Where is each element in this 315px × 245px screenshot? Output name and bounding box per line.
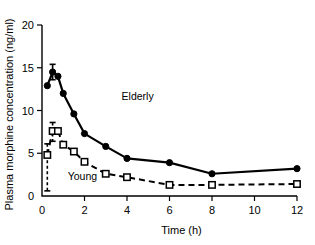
chart-figure: 05101520024681012 Time (h)Plasma morphin… (0, 0, 315, 245)
y-tick-label: 5 (28, 147, 34, 159)
data-point-elderly (103, 143, 109, 149)
plot-canvas: 05101520024681012 Time (h)Plasma morphin… (0, 0, 315, 245)
y-axis-title: Plasma morphine concentration (ng/ml) (3, 19, 15, 211)
y-tick-label: 0 (28, 190, 34, 202)
x-tick-label: 12 (291, 204, 303, 216)
x-tick-label: 4 (124, 204, 130, 216)
series-annotation-elderly: Elderly (122, 90, 155, 102)
data-point-elderly (71, 111, 77, 117)
y-tick-label: 15 (22, 62, 34, 74)
data-point-young (81, 159, 87, 165)
data-point-elderly (294, 166, 300, 172)
data-point-elderly (81, 130, 87, 136)
data-point-elderly (166, 160, 172, 166)
data-point-young (44, 152, 50, 158)
data-point-young (124, 174, 130, 180)
axes: 05101520024681012 (22, 19, 303, 216)
x-tick-label: 0 (39, 204, 45, 216)
data-point-young (166, 182, 172, 188)
x-tick-label: 10 (248, 204, 260, 216)
series-annotations: ElderlyYoung (68, 90, 155, 182)
data-point-young (103, 171, 109, 177)
data-point-elderly (44, 83, 50, 89)
data-point-young (294, 181, 300, 187)
series-annotation-young: Young (68, 170, 98, 182)
data-point-elderly (50, 69, 56, 75)
y-tick-label: 20 (22, 19, 34, 31)
x-tick-label: 2 (81, 204, 87, 216)
data-point-young (71, 148, 77, 154)
data-point-elderly (60, 90, 66, 96)
data-point-elderly (209, 171, 215, 177)
data-point-young (209, 182, 215, 188)
x-tick-label: 8 (209, 204, 215, 216)
x-axis-title: Time (h) (161, 224, 202, 236)
data-point-elderly (55, 73, 61, 79)
y-tick-label: 10 (22, 105, 34, 117)
data-point-young (55, 128, 61, 134)
data-point-elderly (124, 155, 130, 161)
data-point-young (60, 142, 66, 148)
x-tick-label: 6 (166, 204, 172, 216)
